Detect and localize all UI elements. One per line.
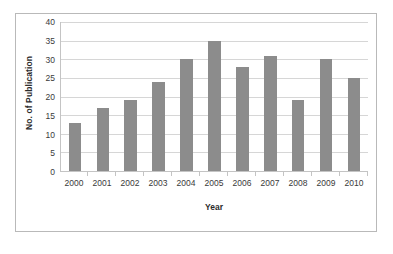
plot-area-wrapper: 4035302520151050	[38, 22, 368, 172]
x-axis-tick	[256, 172, 284, 176]
y-axis-tick-label: 35	[46, 36, 55, 46]
bar	[180, 59, 193, 171]
x-axis-tick	[172, 172, 200, 176]
x-axis-tick-label: 2009	[312, 178, 340, 188]
x-axis-tick	[284, 172, 312, 176]
bar-series	[61, 22, 368, 171]
x-axis-tick	[88, 172, 116, 176]
y-axis-tick-label: 25	[46, 73, 55, 83]
bar-slot	[340, 22, 368, 171]
bar-slot	[201, 22, 229, 171]
y-axis-title-text: No. of Publication	[24, 56, 34, 130]
x-axis-tick	[144, 172, 172, 176]
bar	[124, 100, 137, 171]
plot-area	[60, 22, 368, 172]
x-axis-title: Year	[60, 202, 368, 212]
bar	[152, 82, 165, 171]
x-axis-tick-label: 2004	[172, 178, 200, 188]
bar	[264, 56, 277, 171]
bar	[236, 67, 249, 171]
y-axis-tick-label: 5	[50, 148, 55, 158]
x-axis-tick	[312, 172, 340, 176]
x-axis-tick	[228, 172, 256, 176]
bar	[320, 59, 333, 171]
x-axis-tick-label: 2007	[256, 178, 284, 188]
x-axis-tick	[116, 172, 144, 176]
x-axis-tick-label: 2006	[228, 178, 256, 188]
x-axis-tick-label: 2003	[144, 178, 172, 188]
bar	[208, 41, 221, 171]
x-axis-tick-label: 2001	[88, 178, 116, 188]
y-axis-tick-labels: 4035302520151050	[38, 22, 58, 172]
bar-slot	[89, 22, 117, 171]
bar	[292, 100, 305, 171]
bar-slot	[145, 22, 173, 171]
x-axis-tick	[340, 172, 368, 176]
x-axis-tick-label: 2002	[116, 178, 144, 188]
y-axis-tick-label: 40	[46, 17, 55, 27]
bar	[69, 123, 82, 171]
bar-slot	[256, 22, 284, 171]
x-axis-tick-label: 2010	[340, 178, 368, 188]
x-axis-ticks	[60, 172, 368, 176]
bar-slot	[61, 22, 89, 171]
x-axis-tick	[200, 172, 228, 176]
bar-slot	[117, 22, 145, 171]
y-axis-tick-label: 30	[46, 55, 55, 65]
bar-slot	[228, 22, 256, 171]
x-axis-tick-label: 2008	[284, 178, 312, 188]
x-axis-tick-labels: 2000200120022003200420052006200720082009…	[60, 178, 368, 188]
y-axis-tick-label: 15	[46, 111, 55, 121]
x-axis-tick-label: 2000	[60, 178, 88, 188]
y-axis-title: No. of Publication	[20, 14, 38, 172]
y-axis-tick-label: 20	[46, 92, 55, 102]
bar-slot	[173, 22, 201, 171]
y-axis-tick-label: 10	[46, 130, 55, 140]
bar	[348, 78, 361, 171]
bar	[97, 108, 110, 171]
y-axis-tick-label: 0	[50, 167, 55, 177]
bar-slot	[284, 22, 312, 171]
x-axis-tick	[60, 172, 88, 176]
x-axis-tick-label: 2005	[200, 178, 228, 188]
chart-frame: No. of Publication 4035302520151050 2000…	[15, 13, 377, 232]
bar-slot	[312, 22, 340, 171]
